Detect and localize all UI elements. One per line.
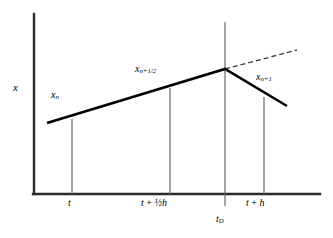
figure-canvas: x xn xn+1/2 xn+1 t t + ½h t + h tD	[0, 0, 333, 238]
tick-label-t-D: tD	[216, 214, 224, 225]
y-axis-label: x	[13, 82, 18, 93]
extrapolation-dashed-line	[225, 50, 297, 69]
tick-label-t-half-h: t + ½h	[141, 198, 167, 208]
curve-label-x-n: xn	[51, 90, 59, 101]
tick-label-t-plus-h: t + h	[246, 198, 264, 208]
curve-label-x-n-plus-1: xn+1	[256, 72, 272, 83]
trajectory-solid-line	[47, 69, 287, 123]
curve-label-x-n-half: xn+1/2	[135, 64, 156, 75]
tick-label-t: t	[68, 198, 71, 208]
